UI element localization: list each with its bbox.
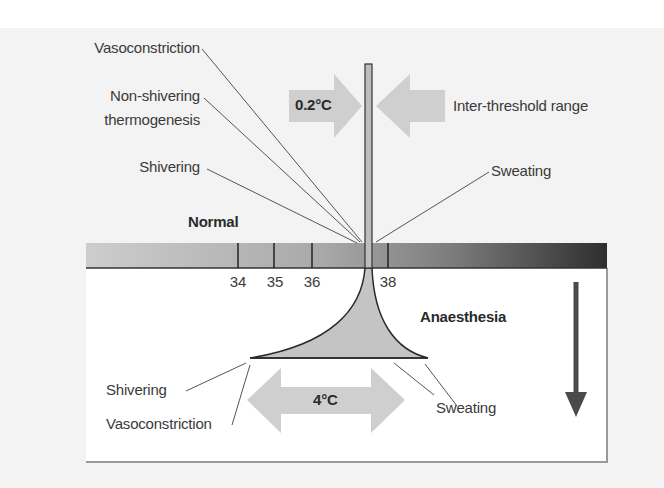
label-sweating-anaesthesia: Sweating [436, 399, 496, 416]
tick-label: 36 [304, 273, 321, 290]
label-shivering-normal: Shivering [139, 158, 200, 175]
label-vasoconstriction-anaesthesia: Vasoconstriction [106, 415, 212, 432]
anaesthesia-panel [86, 268, 607, 462]
label-normal: Normal [188, 213, 238, 230]
label-inter-threshold-value: 0.2°C [295, 96, 332, 113]
label-thermogenesis: thermogenesis [104, 111, 200, 128]
label-shivering-anaesthesia: Shivering [106, 381, 167, 398]
label-inter-threshold-range: Inter-threshold range [453, 97, 588, 114]
tick-label: 38 [380, 273, 397, 290]
tick-label: 35 [267, 273, 284, 290]
label-range-value: 4°C [313, 391, 338, 408]
normal-threshold-bar [365, 64, 372, 268]
arrow-left-icon [376, 74, 445, 138]
temperature-scale-bar [86, 243, 607, 268]
label-sweating-normal: Sweating [491, 162, 551, 179]
diagram-graphics [0, 0, 664, 488]
label-vasoconstriction-normal: Vasoconstriction [94, 39, 200, 56]
label-anaesthesia: Anaesthesia [420, 308, 506, 325]
label-non-shivering: Non-shivering [110, 87, 200, 104]
leader-lines-top [202, 49, 489, 243]
tick-label: 34 [230, 273, 247, 290]
